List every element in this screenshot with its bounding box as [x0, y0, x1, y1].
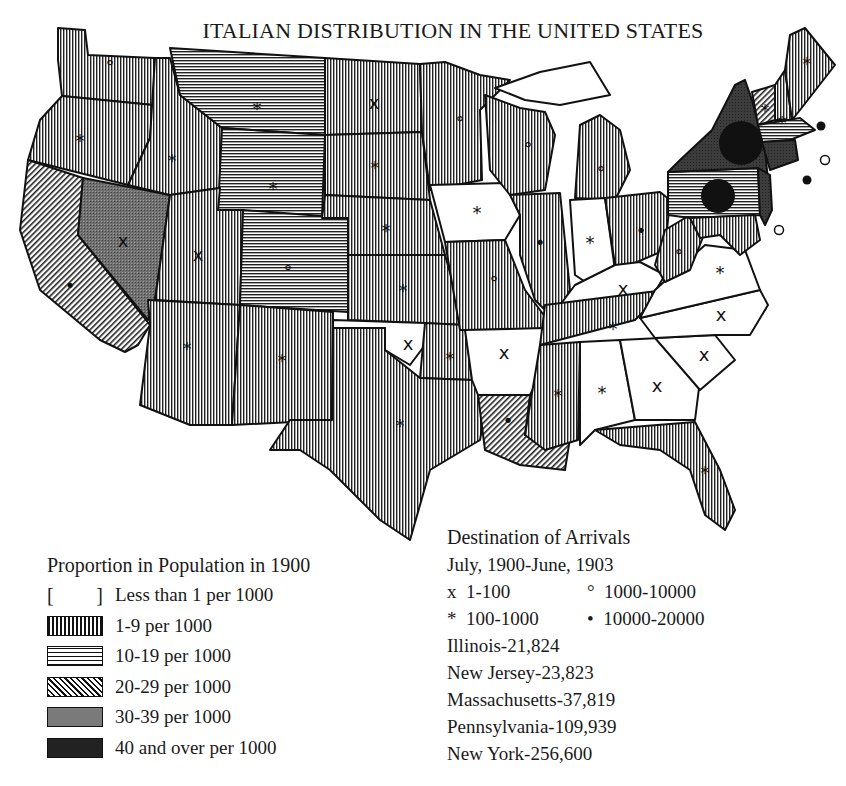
symbol-texas: * — [396, 415, 405, 436]
dot-new-jersey — [803, 176, 812, 185]
symbol-kentucky: x — [618, 278, 629, 299]
symbol-idaho: * — [168, 150, 177, 171]
symbol-vermont: * — [761, 100, 770, 121]
swatch-vertical-lines — [47, 616, 103, 636]
symbol-washington: ° — [106, 56, 115, 77]
state-wisconsin — [485, 95, 555, 195]
symbol-indiana: * — [586, 232, 595, 253]
swatch-stipple-gray — [47, 707, 103, 727]
top-state-illinois: Illinois-21,824 — [447, 632, 704, 659]
state-wyoming — [218, 128, 325, 218]
symbol-new-hampshire: * — [778, 112, 787, 133]
symbol-tennessee: * — [609, 318, 618, 339]
state-new-jersey — [758, 168, 772, 225]
legend-row-40-plus: 40 and over per 1000 — [47, 733, 310, 764]
symbol-utah: x — [193, 244, 204, 265]
symbol-maine: * — [803, 53, 812, 74]
ring-symbol-icon: ° — [587, 581, 595, 602]
symbol-wisconsin: ° — [524, 138, 533, 159]
large-dot-pennsylvania — [701, 179, 735, 213]
symbol-ohio: • — [636, 220, 647, 241]
symbol-oregon: * — [76, 130, 85, 151]
x-symbol-icon: x — [447, 581, 457, 602]
legend-label: Less than 1 per 1000 — [115, 580, 273, 610]
symbol-alabama: * — [598, 382, 607, 403]
legend-row-1-9: 1-9 per 1000 — [47, 611, 310, 642]
legend-row-10-19: 10-19 per 1000 — [47, 641, 310, 672]
legend-row-less-than-1: [] Less than 1 per 1000 — [47, 580, 310, 611]
symbol-arkansas: x — [499, 342, 510, 363]
symbol-virginia: * — [716, 262, 725, 283]
asterisk-symbol-icon: * — [447, 608, 457, 629]
legend-label: 1-9 per 1000 — [115, 611, 212, 641]
top-state-massachusetts: Massachusetts-37,819 — [447, 686, 704, 713]
arrivals-legend: Destination of Arrivals July, 1900-June,… — [447, 524, 704, 767]
swatch-horizontal-lines — [47, 646, 103, 666]
symbol-new-mexico: * — [278, 350, 287, 371]
symbol-south-dakota: * — [371, 157, 380, 178]
legend-row-30-39: 30-39 per 1000 — [47, 702, 310, 733]
symbol-georgia: x — [652, 375, 663, 396]
symbol-mississippi: * — [554, 385, 563, 406]
top-state-pennsylvania: Pennsylvania-109,939 — [447, 713, 704, 740]
symbol-colorado: ° — [284, 261, 293, 282]
state-colorado — [240, 210, 348, 312]
symbol-montana: * — [253, 98, 262, 119]
symbol-nebraska: * — [382, 220, 391, 241]
swatch-dark-solid — [47, 738, 103, 758]
state-arizona — [140, 300, 240, 425]
symbol-north-carolina: x — [716, 304, 727, 325]
arrivals-symbol-row-2: * 100-1000 • 10000-20000 — [447, 605, 704, 632]
arrivals-heading: Destination of Arrivals — [447, 524, 704, 551]
symbol-wyoming: * — [269, 178, 278, 199]
symbol-louisiana: • — [503, 410, 514, 431]
proportion-legend: Proportion in Population in 1900 [] Less… — [47, 550, 310, 763]
state-michigan — [575, 115, 630, 200]
symbol-iowa: * — [473, 202, 482, 223]
state-florida — [595, 422, 735, 530]
large-dot-new-york — [719, 121, 763, 165]
legend-label: 10-19 per 1000 — [115, 641, 231, 671]
symbol-nevada: x — [118, 230, 129, 251]
state-maine — [785, 28, 835, 120]
symbol-north-dakota: x — [369, 92, 380, 113]
dot-massachusetts — [817, 122, 826, 131]
symbol-west-virginia: ° — [675, 245, 684, 266]
symbol-florida: * — [701, 462, 710, 483]
symbol-illinois: • — [535, 232, 546, 253]
symbol-south-carolina: x — [699, 344, 710, 365]
arrivals-symbol-row-1: x 1-100 ° 1000-10000 — [447, 578, 704, 605]
state-michigan-up — [495, 62, 610, 105]
symbol-oklahoma: x — [403, 333, 414, 354]
symbol-missouri: ° — [490, 272, 499, 293]
proportion-legend-heading: Proportion in Population in 1900 — [47, 550, 310, 580]
top-state-new-jersey: New Jersey-23,823 — [447, 659, 704, 686]
swatch-blank: [] — [47, 585, 103, 605]
symbol-minnesota: ° — [456, 112, 465, 133]
ring-delaware — [775, 226, 784, 235]
legend-label: 40 and over per 1000 — [115, 733, 276, 763]
swatch-diagonal-lines — [47, 677, 103, 697]
symbol-indian-territory: * — [446, 348, 455, 369]
top-state-new-york: New York-256,600 — [447, 740, 704, 767]
legend-label: 20-29 per 1000 — [115, 672, 231, 702]
symbol-kansas: * — [399, 280, 408, 301]
symbol-california: • — [65, 275, 76, 296]
symbol-michigan: ° — [597, 162, 606, 183]
symbol-arizona: * — [183, 338, 192, 359]
legend-row-20-29: 20-29 per 1000 — [47, 672, 310, 703]
ring-rhode-island — [821, 156, 830, 165]
dot-symbol-icon: • — [587, 608, 594, 629]
arrivals-period: July, 1900-June, 1903 — [447, 551, 704, 578]
legend-label: 30-39 per 1000 — [115, 702, 231, 732]
